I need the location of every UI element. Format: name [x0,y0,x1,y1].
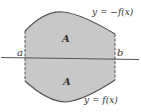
left-bound-label: a [17,48,23,58]
area-between-curves-figure: y = −f(x) y = f(x) a b A A [0,0,141,112]
top-curve-label: y = −f(x) [92,8,133,17]
bottom-curve-label: y = f(x) [84,96,118,105]
right-bound-label: b [117,48,123,58]
upper-area-label: A [62,34,70,44]
lower-area-label: A [63,77,71,87]
